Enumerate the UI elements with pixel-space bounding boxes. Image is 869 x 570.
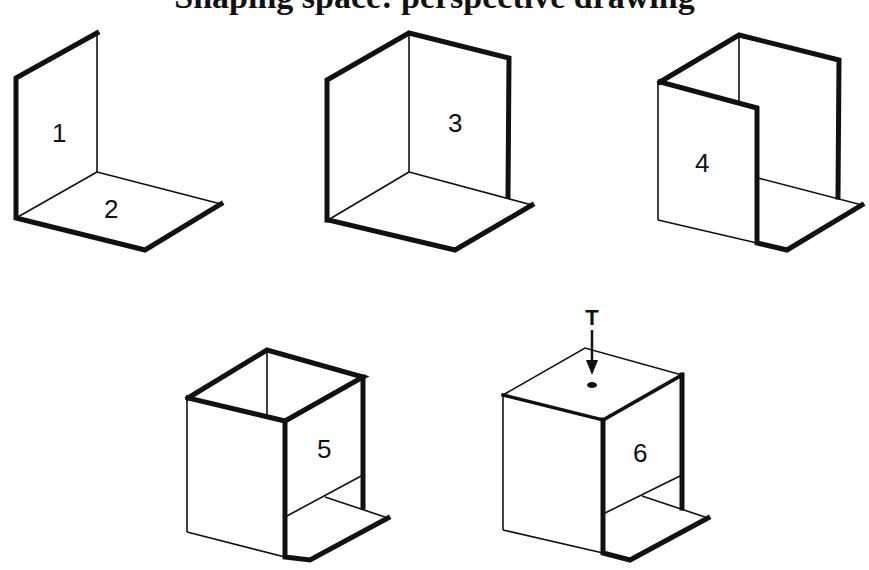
plane-label-4: 4 (695, 148, 709, 178)
plane-label-3: 3 (448, 108, 462, 138)
plane-label-1: 1 (52, 118, 66, 148)
figure-6: T 6 (503, 305, 708, 560)
light-symbol: T (585, 305, 599, 330)
plane-label-2: 2 (104, 194, 118, 224)
diagram-canvas: 1 2 3 4 5 (0, 0, 869, 570)
figure-1-2: 1 2 (16, 33, 221, 250)
top-opening (587, 382, 597, 388)
figure-3: 3 (327, 33, 532, 250)
figure-5: 5 (187, 350, 388, 560)
plane-label-6: 6 (633, 438, 647, 468)
plane-label-5: 5 (317, 434, 331, 464)
figure-4: 4 (658, 35, 862, 250)
